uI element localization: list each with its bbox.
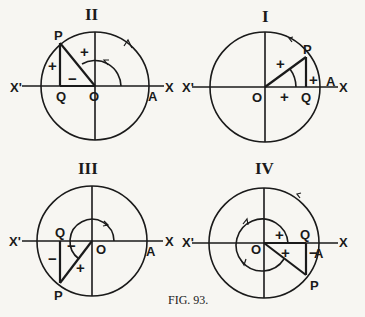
sign-adj: + <box>280 88 289 105</box>
sign-adj: − <box>67 237 76 254</box>
point-p: P <box>310 278 319 293</box>
axis-x: X <box>339 235 348 250</box>
point-o: O <box>252 90 262 105</box>
axis-x-prime: X' <box>9 234 21 249</box>
diagram-quadrant-iii <box>22 186 163 296</box>
point-q: Q <box>55 225 65 240</box>
axis-x-prime: X' <box>182 235 194 250</box>
sign-adj: − <box>68 70 77 87</box>
sign-hyp: + <box>80 43 89 60</box>
point-p: P <box>54 288 63 303</box>
point-q: Q <box>56 89 66 104</box>
sign-hyp: + <box>281 244 290 261</box>
sign-adj: + <box>275 226 284 243</box>
point-a: A <box>146 244 156 259</box>
sign-opp: + <box>309 71 318 88</box>
point-q: Q <box>301 90 311 105</box>
point-p: P <box>303 42 312 57</box>
figure-caption: FIG. 93. <box>168 293 208 307</box>
axis-x: X <box>165 80 174 95</box>
point-o: O <box>251 242 261 257</box>
sign-opp: + <box>48 57 57 74</box>
sign-opp: − <box>48 250 57 267</box>
axis-x: X <box>339 80 348 95</box>
point-q: Q <box>300 227 310 242</box>
point-o: O <box>96 242 106 257</box>
axis-x: X <box>165 234 174 249</box>
sign-opp: − <box>309 244 318 261</box>
quadrant-label: II <box>85 5 99 24</box>
sign-hyp: + <box>276 55 285 72</box>
point-p: P <box>54 28 63 43</box>
diagram-quadrant-ii <box>22 32 164 140</box>
sign-hyp: + <box>76 259 85 276</box>
point-o: O <box>89 89 99 104</box>
angle-arc <box>82 61 121 86</box>
point-a: A <box>326 74 336 89</box>
quadrant-label: IV <box>255 159 275 178</box>
axis-x-prime: X' <box>10 80 22 95</box>
axis-x-prime: X' <box>182 80 194 95</box>
point-a: A <box>148 89 158 104</box>
quadrant-label: I <box>262 7 269 26</box>
quadrant-label: III <box>78 159 98 178</box>
figure-93: II P Q O A X' X + + − I P Q O A X' X + +… <box>0 0 365 317</box>
